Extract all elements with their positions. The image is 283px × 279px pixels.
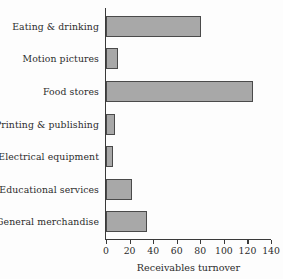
x-tick-label: 20 xyxy=(124,245,136,256)
bar-series xyxy=(106,10,271,238)
bar-fill xyxy=(106,146,113,167)
x-tick-mark xyxy=(106,240,107,244)
bar xyxy=(106,48,118,69)
bar-fill xyxy=(106,16,201,37)
bar-fill xyxy=(106,179,132,200)
x-tick-mark xyxy=(271,240,272,244)
bar xyxy=(106,179,132,200)
category-label: Food stores xyxy=(43,81,99,102)
x-tick-label: 100 xyxy=(215,245,233,256)
category-label: General merchandise xyxy=(0,211,99,232)
bar xyxy=(106,16,201,37)
x-tick-label: 60 xyxy=(171,245,183,256)
category-label: Educational services xyxy=(0,179,99,200)
x-tick-mark xyxy=(177,240,178,244)
x-tick-label: 140 xyxy=(262,245,280,256)
category-label: Eating & drinking xyxy=(12,16,99,37)
category-label: Printing & publishing xyxy=(0,114,99,135)
x-tick-mark xyxy=(153,240,154,244)
bar xyxy=(106,211,147,232)
x-tick-mark xyxy=(200,240,201,244)
category-label: Motion pictures xyxy=(23,48,99,69)
bar xyxy=(106,81,253,102)
x-tick-label: 0 xyxy=(103,245,109,256)
bar-fill xyxy=(106,211,147,232)
bar-fill xyxy=(106,81,253,102)
x-tick-label: 80 xyxy=(194,245,206,256)
category-axis-labels: Eating & drinkingMotion picturesFood sto… xyxy=(0,10,101,238)
x-tick-label: 40 xyxy=(147,245,159,256)
bar-fill xyxy=(106,114,115,135)
x-tick-label: 120 xyxy=(239,245,257,256)
x-tick-mark xyxy=(224,240,225,244)
bar xyxy=(106,114,115,135)
bar-fill xyxy=(106,48,118,69)
x-tick-mark xyxy=(247,240,248,244)
bar-chart: Eating & drinkingMotion picturesFood sto… xyxy=(0,0,283,279)
bar xyxy=(106,146,113,167)
category-label: Electrical equipment xyxy=(0,146,99,167)
x-tick-mark xyxy=(130,240,131,244)
x-axis-title: Receivables turnover xyxy=(106,262,271,273)
